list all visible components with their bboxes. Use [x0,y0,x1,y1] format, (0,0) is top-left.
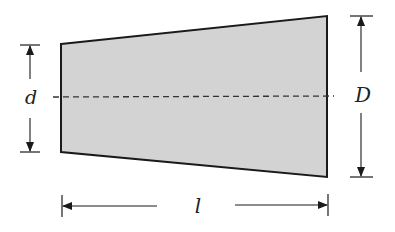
large-diameter-dimension: D [350,16,373,177]
d-label: d [25,86,37,108]
small-diameter-dimension: d [20,45,40,152]
tapered-shaft-diagram: d D l [0,0,395,232]
D-label: D [354,83,371,107]
length-dimension: l [62,194,328,218]
l-label: l [195,194,201,218]
